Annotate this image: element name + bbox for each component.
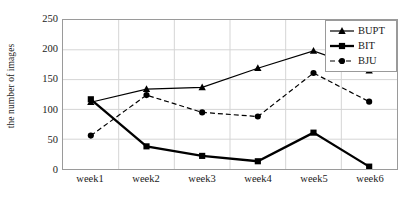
data-point-bit-week3 — [199, 153, 205, 159]
x-tick-label: week4 — [230, 172, 286, 185]
data-point-bju-week6 — [366, 99, 372, 105]
legend-entry-bit[interactable]: BIT — [326, 38, 396, 53]
data-point-bit-week1 — [88, 96, 94, 102]
data-point-bju-week1 — [88, 133, 94, 139]
legend-entry-bju[interactable]: BJU — [326, 53, 396, 68]
y-axis-tick-labels: 250200150100500 — [20, 0, 58, 202]
x-tick-label: week3 — [174, 172, 230, 185]
legend-entry-bupt[interactable]: BUPT — [326, 23, 396, 38]
data-point-bju-week2 — [143, 92, 149, 98]
y-axis-title: the number of images — [0, 0, 22, 172]
data-point-bju-week3 — [199, 109, 205, 115]
y-tick-label: 200 — [24, 44, 58, 54]
data-point-bupt-week5 — [310, 47, 317, 54]
x-tick-label: week1 — [62, 172, 118, 185]
x-tick-label: week5 — [286, 172, 342, 185]
legend-label: BJU — [355, 55, 377, 66]
data-point-bit-week6 — [366, 164, 372, 169]
legend-marker-circle-icon — [329, 54, 355, 68]
y-tick-label: 150 — [24, 74, 58, 84]
y-tick-label: 250 — [24, 14, 58, 24]
legend-marker-square-icon — [329, 39, 355, 53]
legend-marker-triangle-icon — [329, 24, 355, 38]
data-point-bju-week5 — [310, 70, 316, 76]
data-point-bit-week4 — [255, 158, 261, 164]
legend-marker-glyph — [339, 42, 345, 48]
y-tick-label: 50 — [24, 135, 58, 145]
y-tick-label: 0 — [24, 165, 58, 175]
line-chart-figure: the number of images 250200150100500 wee… — [0, 0, 413, 202]
legend: BUPTBITBJU — [325, 20, 397, 72]
x-tick-label: week2 — [118, 172, 174, 185]
legend-label: BUPT — [355, 25, 385, 36]
legend-label: BIT — [355, 40, 375, 51]
y-tick-label: 100 — [24, 105, 58, 115]
data-point-bju-week4 — [255, 113, 261, 119]
data-point-bit-week2 — [143, 143, 149, 149]
data-point-bit-week5 — [310, 130, 316, 136]
x-axis-tick-labels: week1week2week3week4week5week6 — [62, 172, 398, 190]
x-tick-label: week6 — [342, 172, 398, 185]
legend-marker-glyph — [339, 57, 345, 63]
y-axis-title-text: the number of images — [6, 44, 16, 129]
